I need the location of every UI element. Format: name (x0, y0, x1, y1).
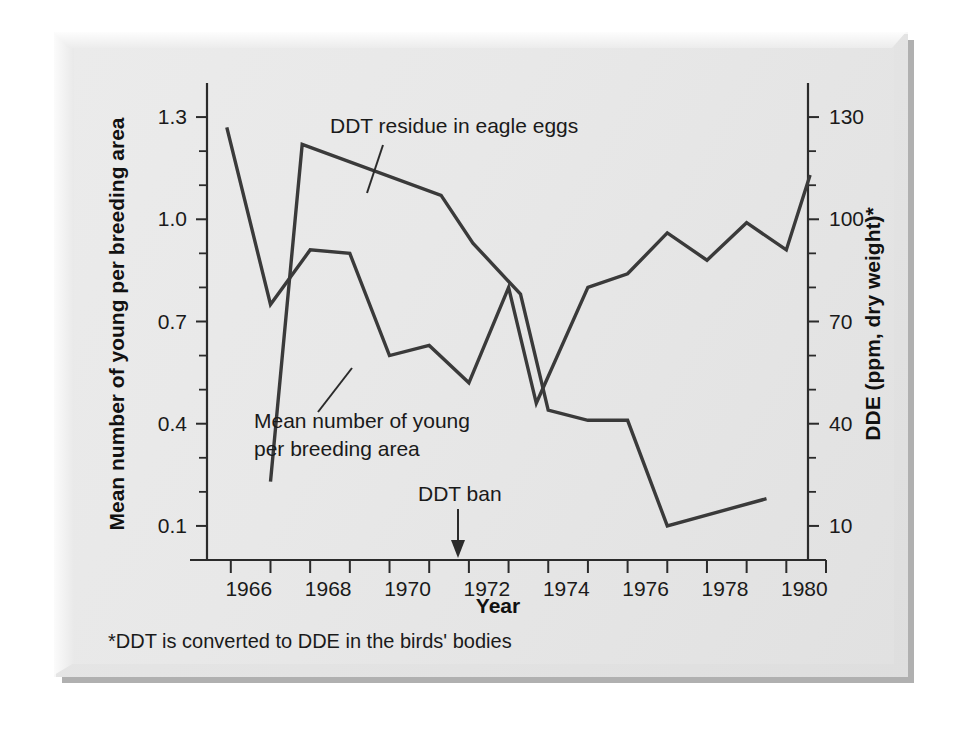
x-axis-tick-label: 1974 (543, 577, 590, 600)
y-axis-left-tick-labels: 0.10.40.71.01.3 (158, 105, 188, 537)
y-axis-left-tick-label: 0.7 (158, 310, 187, 333)
y-axis-left-tick-label: 0.1 (158, 514, 187, 537)
x-axis-tick-label: 1980 (781, 577, 828, 600)
y-axis-left-ticks (196, 117, 207, 526)
x-axis-ticks (231, 560, 826, 573)
y-axis-right-tick-label: 70 (829, 310, 852, 333)
annotation-ddt-residue-label: DDT residue in eagle eggs (330, 114, 578, 137)
annotation-ddt-ban-arrow-head (451, 540, 465, 558)
x-axis-tick-label: 1966 (225, 577, 272, 600)
y-axis-left-tick-label: 0.4 (158, 412, 188, 435)
y-axis-right-tick-label: 130 (829, 105, 864, 128)
x-axis-tick-label: 1968 (305, 577, 352, 600)
y-axis-right-title: DDE (ppm, dry weight)* (861, 207, 884, 441)
y-axis-right-tick-labels: 104070100130 (829, 105, 864, 537)
plot-area: 0.10.40.71.01.3 104070100130 19661968197… (0, 0, 953, 741)
y-axis-left-tick-label: 1.0 (158, 207, 187, 230)
annotation-ddt-ban-label: DDT ban (418, 482, 502, 505)
chart-footnote: *DDT is converted to DDE in the birds' b… (108, 630, 512, 652)
y-axis-left-tick-label: 1.3 (158, 105, 187, 128)
annotation-mean-young-leader (318, 368, 352, 412)
x-axis-tick-label: 1970 (384, 577, 431, 600)
x-axis-tick-labels: 19661968197019721974197619781980 (225, 577, 827, 600)
series-line-mean-young (227, 127, 810, 403)
y-axis-left-title: Mean number of young per breeding area (105, 117, 128, 530)
annotation-mean-young-line2: per breeding area (254, 437, 420, 460)
x-axis-tick-label: 1978 (702, 577, 749, 600)
y-axis-right-tick-label: 40 (829, 412, 852, 435)
x-axis-tick-label: 1976 (622, 577, 669, 600)
y-axis-right-tick-label: 10 (829, 514, 852, 537)
y-axis-right-tick-label: 100 (829, 207, 864, 230)
annotation-mean-young-line1: Mean number of young (254, 409, 470, 432)
x-axis-title: Year (476, 594, 520, 617)
chart-figure: 0.10.40.71.01.3 104070100130 19661968197… (0, 0, 953, 741)
